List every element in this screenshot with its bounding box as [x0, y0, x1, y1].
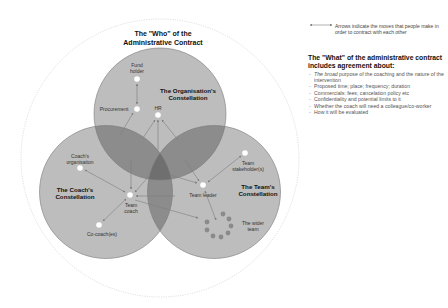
label-line: team: [238, 226, 268, 232]
label-line: The Coach's: [45, 186, 105, 193]
hr-label: HR: [150, 105, 166, 111]
co-coach-node: [96, 222, 102, 228]
team-leader-label: Team leader: [185, 192, 221, 198]
list-item: The broad purpose of the coaching and th…: [308, 71, 448, 84]
procurement-label: Procurement: [96, 106, 132, 112]
organisation-constellation-label: The Organisation's Constellation: [148, 87, 228, 102]
procurement-node: [134, 106, 140, 112]
diagram-title: The "Who" of the Administrative Contract: [108, 30, 218, 47]
item-text: Proposed time; place; frequency; duratio…: [314, 83, 410, 89]
what-list: The broad purpose of the coaching and th…: [308, 71, 448, 116]
what-heading: The "What" of the administrative contrac…: [308, 54, 448, 70]
item-text: Commercials: fees; cancelation policy et…: [314, 90, 409, 96]
co-coach-label: Co-coach(es): [82, 231, 122, 237]
label-line: organisation: [60, 159, 100, 165]
team-leader-node: [200, 182, 206, 188]
label-line: coach: [120, 208, 142, 214]
wider-team-label: The wider team: [238, 220, 268, 232]
coachs-organisation-node: [77, 165, 83, 171]
heading-bold: What: [325, 54, 342, 61]
item-text: Whether the coach will need a colleague/…: [314, 103, 431, 109]
fund-holder-label: Fund holder: [122, 62, 152, 74]
title-line-2: Administrative Contract: [108, 39, 218, 48]
label-line: stakeholder(s): [228, 166, 268, 172]
team-coach-node: [127, 192, 133, 198]
label-line: holder: [122, 68, 152, 74]
label-line: Constellation: [45, 193, 105, 200]
list-item: How it will be evaluated: [308, 109, 448, 115]
team-stakeholders-node: [242, 150, 248, 156]
team-constellation-label: The Team's Constellation: [228, 183, 288, 198]
hr-node: [155, 112, 161, 118]
label-line: Constellation: [148, 94, 228, 101]
coach-constellation-label: The Coach's Constellation: [45, 186, 105, 201]
item-text: Confidentiality and potential limits to …: [314, 96, 401, 102]
coachs-organisation-label: Coach's organisation: [60, 153, 100, 165]
heading-pre: The ": [308, 54, 325, 61]
title-line-1: The "Who" of the: [108, 30, 218, 39]
fund-holder-node: [134, 76, 140, 82]
label-line: The Team's: [228, 183, 288, 190]
item-emphasis: The broad: [314, 71, 338, 77]
item-text: How it will be evaluated: [314, 109, 368, 115]
legend-text: Arrows indicate the moves that people ma…: [335, 23, 447, 35]
team-coach-label: Team coach: [120, 202, 142, 214]
what-section: The "What" of the administrative contrac…: [308, 54, 448, 115]
label-line: Constellation: [228, 190, 288, 197]
team-stakeholders-label: Team stakeholder(s): [228, 160, 268, 172]
label-line: The Organisation's: [148, 87, 228, 94]
